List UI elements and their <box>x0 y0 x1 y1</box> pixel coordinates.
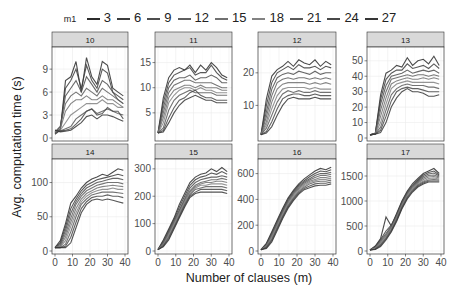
y-tick-label: 50 <box>37 211 49 222</box>
facet-panel-16: 160200400600010203040 <box>237 144 339 268</box>
x-tick-label: 40 <box>435 257 447 268</box>
y-tick-label: 400 <box>237 194 254 205</box>
y-tick-label: 0 <box>42 133 48 144</box>
y-tick-label: 500 <box>346 221 363 232</box>
y-axis-label: Avg. computation time (s) <box>10 72 24 222</box>
facet-strip-label: 14 <box>86 148 95 157</box>
x-axis-label: Number of clauses (m) <box>0 271 462 285</box>
y-tick-label: 9 <box>42 64 48 75</box>
y-tick-label: 0 <box>42 246 48 257</box>
facet-panel-10: 100369 <box>42 32 128 144</box>
facet-strip-label: 11 <box>189 36 198 45</box>
y-tick-label: 300 <box>134 163 151 174</box>
x-tick-label: 40 <box>327 257 339 268</box>
y-tick-label: 0 <box>248 246 254 257</box>
y-tick-label: 20 <box>352 102 364 113</box>
x-tick-label: 0 <box>367 257 373 268</box>
y-tick-label: 0 <box>357 246 363 257</box>
faceted-line-chart: 1003691151015121020130102030405014050100… <box>0 0 462 302</box>
y-tick-label: 5 <box>145 107 151 118</box>
x-tick-label: 40 <box>223 257 235 268</box>
y-tick-label: 200 <box>237 220 254 231</box>
y-tick-label: 20 <box>243 67 255 78</box>
y-tick-label: 0 <box>145 246 151 257</box>
x-tick-label: 30 <box>418 257 430 268</box>
facet-panel-15: 150100200300010203040 <box>134 144 235 268</box>
x-tick-label: 10 <box>273 257 285 268</box>
y-tick-label: 1000 <box>341 196 364 207</box>
x-tick-label: 0 <box>155 257 161 268</box>
y-tick-label: 40 <box>352 71 364 82</box>
y-tick-label: 50 <box>352 55 364 66</box>
facet-panel-11: 1151015 <box>140 32 232 141</box>
y-tick-label: 15 <box>140 57 152 68</box>
y-tick-label: 30 <box>352 86 364 97</box>
x-tick-label: 20 <box>291 257 303 268</box>
x-tick-label: 10 <box>67 257 79 268</box>
x-tick-label: 20 <box>188 257 200 268</box>
facet-panel-12: 121020 <box>243 32 336 141</box>
y-tick-label: 3 <box>42 110 48 121</box>
y-tick-label: 1500 <box>341 171 364 182</box>
x-tick-label: 40 <box>119 257 131 268</box>
facet-panel-17: 17050010001500010203040 <box>341 144 447 268</box>
facet-panel-13: 1301020304050 <box>352 32 444 144</box>
facet-strip-label: 17 <box>401 148 410 157</box>
x-tick-label: 10 <box>170 257 182 268</box>
y-tick-label: 100 <box>31 177 48 188</box>
facet-strip-label: 12 <box>293 36 302 45</box>
y-tick-label: 10 <box>352 117 364 128</box>
facet-strip-label: 10 <box>86 36 95 45</box>
y-tick-label: 6 <box>42 87 48 98</box>
y-tick-label: 10 <box>243 100 255 111</box>
y-tick-label: 200 <box>134 191 151 202</box>
facet-strip-label: 13 <box>401 36 410 45</box>
x-tick-label: 10 <box>382 257 394 268</box>
x-tick-label: 0 <box>258 257 264 268</box>
x-tick-label: 30 <box>309 257 321 268</box>
x-tick-label: 0 <box>52 257 58 268</box>
x-tick-label: 20 <box>400 257 412 268</box>
y-tick-label: 0 <box>357 133 363 144</box>
y-tick-label: 10 <box>140 82 152 93</box>
x-tick-label: 30 <box>206 257 218 268</box>
facet-strip-label: 15 <box>189 148 198 157</box>
x-tick-label: 30 <box>102 257 114 268</box>
facet-strip-label: 16 <box>293 148 302 157</box>
x-tick-label: 20 <box>84 257 96 268</box>
y-tick-label: 100 <box>134 218 151 229</box>
y-tick-label: 600 <box>237 168 254 179</box>
facet-panel-14: 14050100010203040 <box>31 144 131 268</box>
